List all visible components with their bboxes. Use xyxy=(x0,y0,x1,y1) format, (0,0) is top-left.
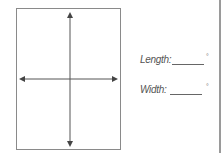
length-field: Length: xyxy=(140,54,204,65)
length-unit: ° xyxy=(206,53,209,60)
axes-arrows xyxy=(0,0,223,153)
length-blank[interactable] xyxy=(172,55,204,65)
width-unit: ° xyxy=(206,83,209,90)
width-blank[interactable] xyxy=(170,85,202,95)
page-edge-divider xyxy=(219,0,221,153)
length-label: Length: xyxy=(140,54,171,65)
width-field: Width: xyxy=(140,84,202,95)
width-label: Width: xyxy=(140,84,166,95)
